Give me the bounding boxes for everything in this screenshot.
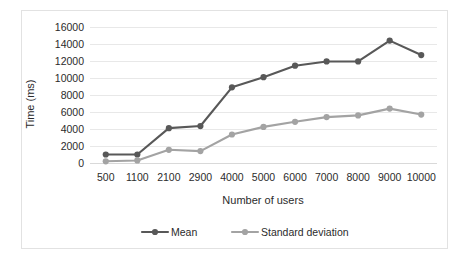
- data-point-marker: [260, 124, 266, 130]
- data-point-marker: [197, 148, 203, 154]
- data-point-marker: [197, 123, 203, 129]
- line-chart-plot: 0200040006000800010000120001400016000 50…: [0, 0, 461, 267]
- data-point-marker: [103, 158, 109, 164]
- data-point-marker: [355, 58, 361, 64]
- series-mean: [103, 38, 425, 158]
- x-tick-label: 6000: [283, 171, 307, 183]
- legend-item-mean[interactable]: Mean: [142, 226, 197, 238]
- y-tick-label: 14000: [55, 38, 84, 50]
- x-tick-label: 4000: [220, 171, 244, 183]
- data-point-marker: [323, 114, 329, 120]
- x-axis-title: Number of users: [222, 194, 304, 206]
- x-tick-label: 9000: [378, 171, 402, 183]
- data-point-marker: [229, 84, 235, 90]
- legend-label: Standard deviation: [261, 226, 349, 238]
- y-tick-label: 0: [78, 157, 84, 169]
- x-tick-label: 7000: [315, 171, 339, 183]
- data-point-marker: [229, 131, 235, 137]
- y-tick-label: 4000: [61, 123, 85, 135]
- y-tick-label: 6000: [61, 106, 85, 118]
- data-point-marker: [323, 58, 329, 64]
- x-tick-label: 5000: [252, 171, 276, 183]
- series-line: [106, 41, 421, 155]
- data-point-marker: [387, 38, 393, 44]
- data-point-marker: [134, 157, 140, 163]
- data-point-marker: [418, 52, 424, 58]
- y-tick-label: 8000: [61, 89, 85, 101]
- x-tick-label: 10000: [407, 171, 436, 183]
- data-point-marker: [166, 125, 172, 131]
- legend-label: Mean: [171, 226, 197, 238]
- legend-marker-icon: [242, 229, 248, 235]
- series-standard-deviation: [103, 106, 425, 165]
- data-point-marker: [166, 147, 172, 153]
- data-point-marker: [103, 151, 109, 157]
- gridlines: [90, 27, 437, 163]
- x-tick-label: 500: [97, 171, 115, 183]
- x-tick-label: 8000: [346, 171, 370, 183]
- chart-figure: 0200040006000800010000120001400016000 50…: [0, 0, 461, 267]
- y-tick-label: 10000: [55, 72, 84, 84]
- series-line: [106, 109, 421, 162]
- x-tick-label: 2100: [157, 171, 181, 183]
- data-point-marker: [260, 74, 266, 80]
- chart-legend: MeanStandard deviation: [142, 226, 349, 238]
- data-point-marker: [355, 112, 361, 118]
- data-point-marker: [292, 63, 298, 69]
- x-axis-tick-labels: 5001100210029004000500060007000800090001…: [97, 171, 436, 183]
- data-point-marker: [387, 106, 393, 112]
- y-tick-label: 16000: [55, 21, 84, 33]
- legend-marker-icon: [152, 229, 158, 235]
- legend-item-standard-deviation[interactable]: Standard deviation: [232, 226, 349, 238]
- x-tick-label: 1100: [126, 171, 149, 183]
- y-tick-label: 12000: [55, 55, 84, 67]
- data-point-marker: [418, 111, 424, 117]
- x-tick-label: 2900: [189, 171, 213, 183]
- y-axis-tick-labels: 0200040006000800010000120001400016000: [55, 21, 84, 169]
- data-point-marker: [134, 151, 140, 157]
- y-tick-label: 2000: [61, 140, 85, 152]
- data-series-group: [103, 38, 425, 165]
- data-point-marker: [292, 119, 298, 125]
- y-axis-title: Time (ms): [24, 79, 36, 128]
